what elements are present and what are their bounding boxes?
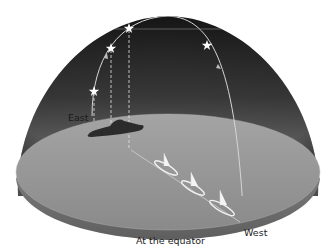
- celestial-sphere-diagram: East West At the equator: [0, 0, 336, 250]
- diagram-caption: At the equator: [136, 235, 205, 246]
- west-label: West: [244, 227, 267, 238]
- horizon-plane: [16, 114, 320, 240]
- east-label: East: [68, 112, 89, 123]
- diagram-canvas: [0, 0, 336, 250]
